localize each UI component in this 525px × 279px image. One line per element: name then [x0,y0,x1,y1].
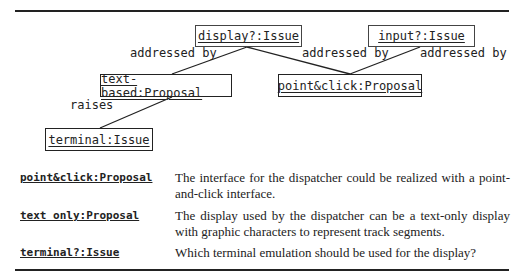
glossary-description: Which terminal emulation should be used … [175,245,510,261]
glossary-row: text only:Proposal The display used by t… [20,208,510,240]
node-terminal-issue: terminal:Issue [45,128,153,151]
edge-label-display-pointclick: addressed by [302,46,389,60]
glossary-row: point&click:Proposal The interface for t… [20,170,510,202]
edge-label-raises: raises [70,98,113,112]
edge-label-display-textbased: addressed by [130,46,217,60]
bottom-rule [15,269,509,271]
edge-label-input-pointclick: addressed by [420,46,507,60]
node-input-issue: input?:Issue [368,25,475,47]
glossary-term: terminal?:Issue [20,245,175,261]
node-display-issue: display?:Issue [195,25,302,47]
glossary-row: terminal?:Issue Which terminal emulation… [20,245,510,261]
glossary-term: text only:Proposal [20,208,175,240]
node-point-click-proposal: point&click:Proposal [278,74,422,97]
glossary-description: The interface for the dispatcher could b… [175,170,510,202]
glossary-term: point&click:Proposal [20,170,175,202]
glossary-description: The display used by the dispatcher can b… [175,208,510,240]
node-text-based-proposal: text-based:Proposal [100,74,232,97]
